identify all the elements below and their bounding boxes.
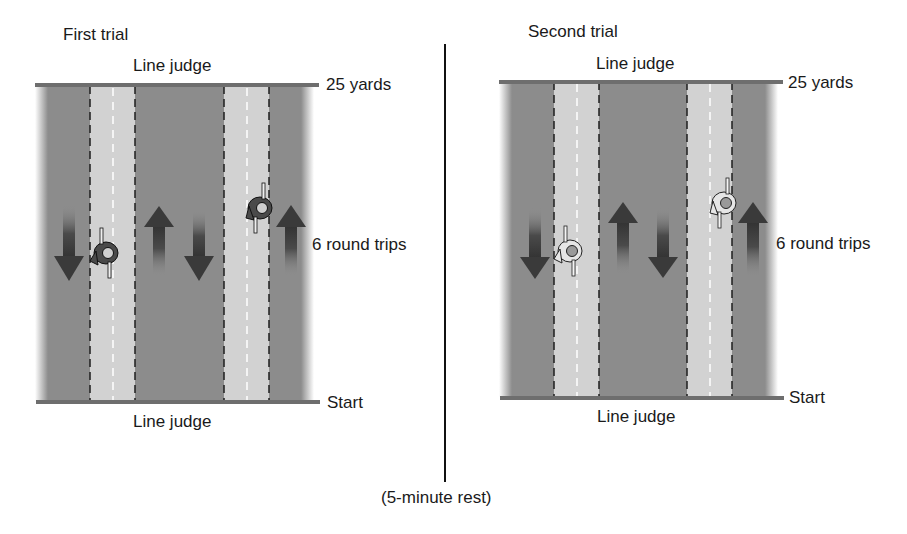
first-trial-panel: First trial Line judge 25 yards 6 round … (0, 0, 907, 534)
finish-line (35, 83, 319, 87)
first-trial-25-yards-label: 25 yards (326, 75, 391, 95)
pool-2 (499, 80, 784, 400)
start-line (36, 400, 320, 404)
finish-line (499, 80, 783, 84)
first-trial-start-label: Start (327, 393, 363, 413)
second-trial-bottom-judge-label: Line judge (597, 407, 675, 427)
second-trial-25-yards-label: 25 yards (788, 73, 853, 93)
second-trial-title: Second trial (528, 22, 618, 42)
second-trial-round-trips-label: 6 round trips (776, 234, 871, 254)
start-line (500, 396, 784, 400)
first-trial-pool-diagram (0, 0, 907, 534)
first-trial-top-judge-label: Line judge (133, 56, 211, 76)
first-trial-bottom-judge-label: Line judge (133, 412, 211, 432)
second-trial-top-judge-label: Line judge (596, 54, 674, 74)
rest-label: (5-minute rest) (381, 488, 492, 508)
first-trial-title: First trial (63, 25, 128, 45)
second-trial-start-label: Start (789, 388, 825, 408)
pool-1 (35, 83, 320, 404)
first-trial-round-trips-label: 6 round trips (312, 235, 407, 255)
